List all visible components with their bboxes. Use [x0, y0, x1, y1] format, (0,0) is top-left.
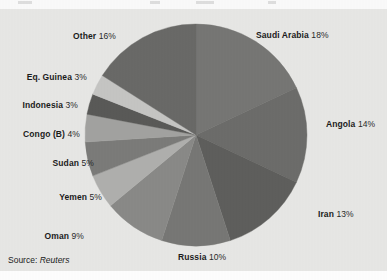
slice-label-other: Other 16%: [73, 31, 116, 41]
slice-name-oman: Oman: [45, 231, 70, 241]
slice-label-congo: Congo (B) 4%: [23, 129, 80, 139]
source-value: Reuters: [40, 255, 70, 265]
slice-name-other: Other: [73, 31, 96, 41]
slice-name-angola: Angola: [326, 119, 355, 129]
slice-pct-other: 16%: [99, 31, 116, 41]
pie-slices: [85, 24, 307, 246]
slice-label-saudi-arabia: Saudi Arabia 18%: [256, 30, 329, 40]
slice-name-iran: Iran: [318, 209, 334, 219]
slice-pct-saudi-arabia: 18%: [311, 30, 328, 40]
slice-label-eq-guinea: Eq. Guinea 3%: [27, 72, 87, 82]
slice-name-saudi-arabia: Saudi Arabia: [256, 30, 309, 40]
slice-pct-yemen: 5%: [90, 192, 103, 202]
slice-pct-indonesia: 3%: [66, 100, 79, 110]
slice-pct-iran: 13%: [336, 209, 353, 219]
slice-pct-sudan: 5%: [82, 158, 95, 168]
slice-label-angola: Angola 14%: [326, 119, 375, 129]
slice-pct-eq-guinea: 3%: [75, 72, 88, 82]
slice-label-russia: Russia 10%: [178, 252, 226, 262]
slice-name-eq-guinea: Eq. Guinea: [27, 72, 72, 82]
pie-chart-figure: Saudi Arabia 18% Angola 14% Iran 13% Rus…: [0, 0, 387, 280]
slice-label-yemen: Yemen 5%: [59, 192, 102, 202]
slice-pct-oman: 9%: [72, 231, 85, 241]
slice-label-oman: Oman 9%: [45, 231, 84, 241]
slice-label-iran: Iran 13%: [318, 209, 354, 219]
slice-name-indonesia: Indonesia: [22, 100, 63, 110]
slice-pct-russia: 10%: [209, 252, 226, 262]
slice-label-sudan: Sudan 5%: [53, 158, 94, 168]
slice-name-russia: Russia: [178, 252, 206, 262]
slice-pct-angola: 14%: [358, 119, 375, 129]
source-prefix: Source:: [8, 255, 37, 265]
slice-name-congo: Congo (B): [23, 129, 65, 139]
cropped-title-remnant: [0, 0, 387, 9]
slice-label-indonesia: Indonesia 3%: [22, 100, 78, 110]
slice-name-sudan: Sudan: [53, 158, 79, 168]
slice-name-yemen: Yemen: [59, 192, 87, 202]
source-note: Source: Reuters: [8, 255, 69, 265]
slice-pct-congo: 4%: [68, 129, 81, 139]
plot-area: Saudi Arabia 18% Angola 14% Iran 13% Rus…: [0, 9, 387, 271]
